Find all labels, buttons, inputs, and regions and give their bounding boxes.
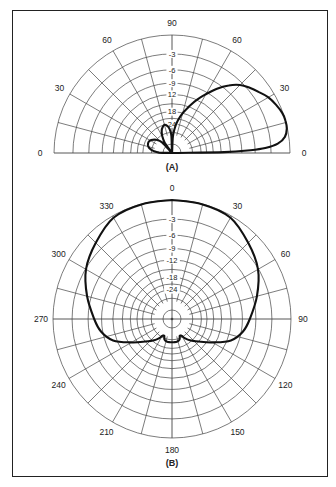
db-label-m6: -6 — [169, 231, 176, 240]
spoke-45 — [185, 70, 256, 141]
angle-label-60: 60 — [281, 249, 291, 259]
angle-label-180: 0 — [38, 148, 43, 158]
db-label-m24: -24 — [167, 285, 178, 294]
caption-a: (A) — [166, 162, 179, 172]
angle-label-30: 30 — [233, 201, 243, 211]
chart-a-elevation-pattern: 030609060300-3-6-9121824 — [38, 18, 307, 158]
spoke-45 — [185, 235, 256, 306]
angle-label-300: 300 — [51, 249, 65, 259]
spoke-135 — [89, 70, 160, 141]
angle-label-150: 150 — [230, 427, 244, 437]
angle-label-0: 0 — [302, 148, 307, 158]
db-label-m9: -9 — [169, 79, 176, 88]
figure-canvas: 030609060300-3-6-9121824 030609012015018… — [0, 0, 336, 487]
angle-label-90: 90 — [167, 18, 177, 28]
angle-label-120: 60 — [102, 35, 112, 45]
angle-label-330: 330 — [99, 201, 113, 211]
spoke-315 — [88, 235, 159, 306]
angle-label-30: 30 — [280, 83, 290, 93]
angle-label-60: 60 — [232, 35, 242, 45]
db-label-m18: -18 — [167, 273, 178, 282]
angle-label-120: 120 — [278, 380, 292, 390]
angle-label-270: 270 — [34, 314, 48, 324]
angle-label-210: 210 — [99, 427, 113, 437]
db-label-m3: -3 — [169, 215, 176, 224]
db-label-m9: -9 — [169, 244, 176, 253]
chart-b-azimuth-pattern: 0306090120150180210240270300330-3-6-9-12… — [34, 183, 308, 455]
angle-label-0: 0 — [170, 183, 175, 193]
caption-b: (B) — [166, 458, 179, 468]
db-label-m3: -3 — [169, 50, 176, 59]
angle-label-180: 180 — [165, 445, 179, 455]
db-label-12: 12 — [168, 90, 176, 99]
db-label-18: 18 — [168, 107, 176, 116]
angle-label-90: 90 — [298, 314, 308, 324]
db-label-m6: -6 — [169, 66, 176, 75]
angle-label-240: 240 — [51, 380, 65, 390]
db-label-m12: -12 — [167, 256, 178, 265]
angle-label-150: 30 — [55, 83, 65, 93]
